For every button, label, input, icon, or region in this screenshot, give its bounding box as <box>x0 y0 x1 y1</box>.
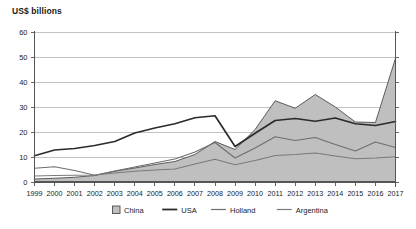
y-tick-label-0: 0 <box>23 178 27 187</box>
x-tick-label-2007: 2007 <box>187 189 203 198</box>
y-tick-labels-group: 0102030405060 <box>19 28 27 187</box>
x-tick-label-2003: 2003 <box>107 189 123 198</box>
y-tick-label-60: 60 <box>19 28 27 37</box>
legend-label-argentina: Argentina <box>296 206 329 215</box>
x-tick-label-2006: 2006 <box>167 189 183 198</box>
x-tick-label-2012: 2012 <box>287 189 303 198</box>
x-tick-label-2011: 2011 <box>267 189 282 198</box>
x-tick-label-2016: 2016 <box>367 189 383 198</box>
y-tick-label-20: 20 <box>19 128 27 137</box>
y-tick-label-10: 10 <box>19 153 27 162</box>
x-tick-label-2013: 2013 <box>307 189 323 198</box>
x-tick-labels-group: 1999200020012002200320042005200620072008… <box>27 189 404 198</box>
y-tick-label-30: 30 <box>19 103 27 112</box>
x-tick-label-2017: 2017 <box>388 189 404 198</box>
x-tick-label-2004: 2004 <box>127 189 143 198</box>
chart-figure: US$ billions 0102030405060 1999200020012… <box>0 0 416 229</box>
legend-swatch-china <box>113 206 121 214</box>
legend-label-china: China <box>124 206 144 215</box>
x-tick-label-2009: 2009 <box>227 189 243 198</box>
x-tick-label-1999: 1999 <box>27 189 43 198</box>
chart-legend: ChinaUSAHollandArgentina <box>113 206 329 215</box>
x-tick-label-2005: 2005 <box>147 189 163 198</box>
y-tick-label-50: 50 <box>19 53 27 62</box>
x-tick-label-2000: 2000 <box>47 189 63 198</box>
x-tick-label-2001: 2001 <box>67 189 83 198</box>
legend-label-holland: Holland <box>230 206 255 215</box>
y-tick-label-40: 40 <box>19 78 27 87</box>
x-tick-label-2008: 2008 <box>207 189 223 198</box>
x-tick-label-2010: 2010 <box>247 189 263 198</box>
x-tick-label-2002: 2002 <box>87 189 103 198</box>
x-tick-label-2015: 2015 <box>347 189 363 198</box>
chart-plot-area: 0102030405060 19992000200120022003200420… <box>0 0 416 229</box>
x-tick-label-2014: 2014 <box>327 189 343 198</box>
legend-label-usa: USA <box>181 206 196 215</box>
